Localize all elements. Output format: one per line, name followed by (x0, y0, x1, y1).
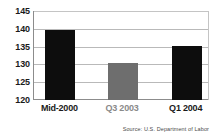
source-note: Source: U.S. Department of Labor (123, 126, 209, 133)
bar-chart-figure: 145140135130125120 Mid-2000Q3 2003Q1 200… (0, 0, 213, 139)
y-axis-tick-label: 140 (0, 24, 30, 33)
plot-area (33, 11, 209, 100)
y-axis-tick-label: 135 (0, 42, 30, 51)
y-axis-tick-label: 145 (0, 7, 30, 16)
y-axis-tick-label: 130 (0, 60, 30, 69)
y-axis: 145140135130125120 (0, 11, 30, 100)
x-axis-tick-label: Q1 2004 (141, 103, 213, 114)
bars-group (34, 11, 208, 100)
bar (108, 63, 138, 100)
bar (172, 46, 202, 100)
y-axis-tick-label: 125 (0, 78, 30, 87)
x-axis: Mid-2000Q3 2003Q1 2004 (33, 103, 209, 117)
bar (45, 30, 75, 100)
